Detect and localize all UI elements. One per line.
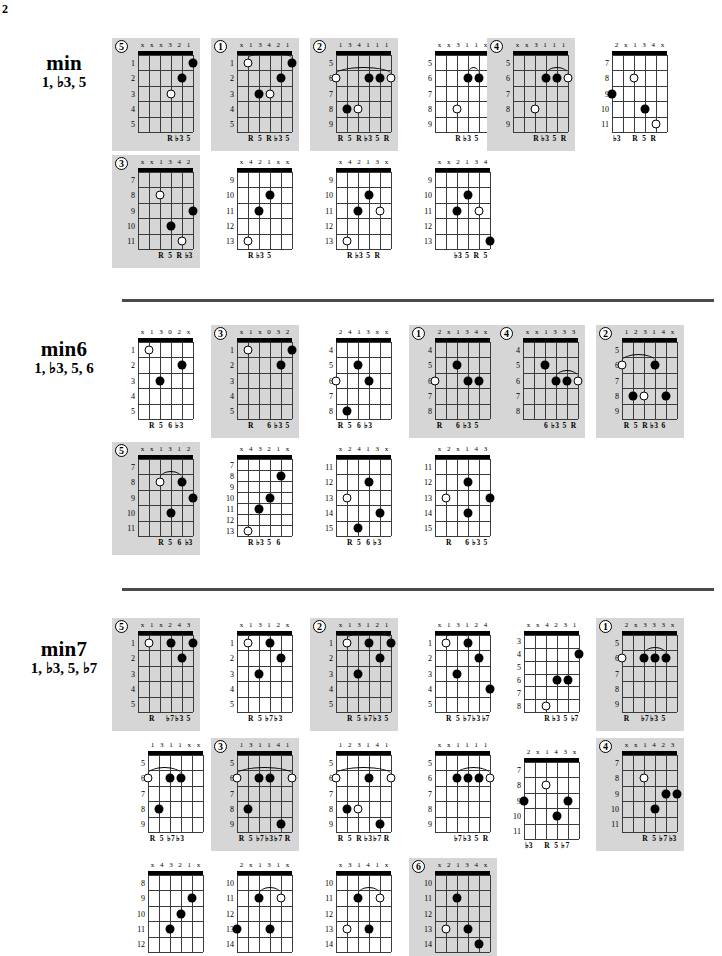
root-dot-open bbox=[387, 74, 396, 83]
string-line bbox=[369, 459, 370, 536]
finger-number: 1 bbox=[570, 621, 579, 631]
chord-diagram: 4xx311156789R♭35R bbox=[487, 38, 575, 151]
fret-line bbox=[237, 514, 292, 515]
chord-diagram: 213411156789R5R♭35R bbox=[310, 38, 398, 151]
string-line bbox=[148, 875, 149, 952]
finger-number: 1 bbox=[541, 41, 550, 51]
fret-number-column: 12345 bbox=[120, 55, 136, 132]
fret-number: 1 bbox=[230, 638, 234, 647]
string-line bbox=[644, 755, 645, 832]
string-line bbox=[523, 342, 524, 419]
finger-number: 4 bbox=[354, 41, 363, 51]
finger-number: 1 bbox=[147, 621, 156, 631]
finger-number: x bbox=[435, 741, 444, 751]
finger-dot bbox=[552, 376, 561, 385]
interval-label bbox=[336, 714, 345, 725]
fret-line bbox=[138, 388, 193, 389]
fret-number: 7 bbox=[141, 789, 145, 798]
string-line bbox=[237, 55, 238, 132]
finger-number: 1 bbox=[237, 741, 246, 751]
string-line bbox=[160, 172, 161, 249]
interval-labels-row: R5♭7♭3 bbox=[622, 834, 677, 845]
root-dot-open bbox=[442, 924, 451, 933]
fret-number: 8 bbox=[615, 684, 619, 693]
fret-line bbox=[524, 699, 579, 700]
fret-number: 11 bbox=[226, 894, 234, 903]
string-line bbox=[192, 875, 193, 952]
finger-numbers-row: x3141x bbox=[336, 861, 391, 871]
fret-number: 9 bbox=[615, 700, 619, 709]
finger-number: 3 bbox=[274, 328, 283, 338]
fret-number: 4 bbox=[230, 684, 234, 693]
barre-arc bbox=[358, 887, 380, 894]
interval-labels-row: ♭3R5♭7 bbox=[524, 841, 579, 852]
chord-form-badge: 3 bbox=[115, 157, 128, 170]
chord-form-badge: 6 bbox=[412, 860, 425, 873]
fret-line bbox=[336, 817, 391, 818]
finger-dot bbox=[365, 478, 374, 487]
fret-number: 8 bbox=[516, 407, 520, 416]
finger-number: 3 bbox=[255, 621, 264, 631]
string-line bbox=[281, 875, 282, 952]
interval-label: 5 bbox=[345, 421, 354, 432]
finger-number: x bbox=[453, 445, 462, 455]
finger-number: 1 bbox=[354, 328, 363, 338]
fret-number: 3 bbox=[230, 669, 234, 678]
interval-label bbox=[444, 251, 453, 262]
finger-dot bbox=[178, 361, 187, 370]
string-line bbox=[391, 755, 392, 832]
string-line bbox=[490, 635, 491, 712]
fret-line bbox=[435, 890, 490, 891]
fret-line bbox=[237, 342, 292, 343]
fret-number: 2 bbox=[230, 361, 234, 370]
finger-number: x bbox=[156, 41, 165, 51]
fret-number: 6 bbox=[516, 376, 520, 385]
finger-number: 3 bbox=[569, 328, 578, 338]
interval-label: R bbox=[166, 134, 175, 145]
interval-labels-row: R♭7♭35 bbox=[138, 714, 193, 725]
fret-line bbox=[336, 697, 391, 698]
fret-line bbox=[336, 755, 391, 756]
interval-label: R bbox=[622, 421, 631, 432]
interval-label: R bbox=[283, 834, 292, 845]
finger-number: x bbox=[481, 328, 490, 338]
string-line bbox=[358, 875, 359, 952]
string-line bbox=[237, 459, 238, 536]
string-line bbox=[259, 459, 260, 536]
finger-number: 2 bbox=[274, 621, 283, 631]
finger-number: 3 bbox=[157, 741, 166, 751]
string-line bbox=[524, 635, 525, 712]
finger-numbers-row: x2x143 bbox=[435, 445, 490, 455]
fret-line bbox=[138, 249, 193, 250]
finger-dot bbox=[178, 478, 187, 487]
interval-labels-row: R♭35♭7 bbox=[524, 714, 579, 725]
finger-numbers-row: xx1342 bbox=[138, 158, 193, 168]
finger-dot bbox=[520, 796, 529, 805]
string-line bbox=[292, 635, 293, 712]
finger-number: 4 bbox=[542, 621, 551, 631]
finger-number: x bbox=[373, 328, 382, 338]
fret-number-column: 1112131415 bbox=[318, 459, 334, 536]
finger-number: 4 bbox=[650, 741, 659, 751]
fret-line bbox=[237, 132, 292, 133]
fret-number: 11 bbox=[601, 120, 609, 129]
chord-diagram: 5xxx32112345R♭35 bbox=[112, 38, 200, 151]
interval-label bbox=[138, 714, 147, 725]
finger-dot bbox=[255, 206, 264, 215]
interval-labels-row: R5R♭35 bbox=[237, 134, 292, 145]
fret-line bbox=[237, 388, 292, 389]
chord-diagram: xx2134910111213♭35R5 bbox=[409, 155, 497, 268]
finger-number: 3 bbox=[561, 621, 570, 631]
finger-number: x bbox=[138, 41, 147, 51]
fret-number: 11 bbox=[127, 524, 135, 533]
fret-line bbox=[435, 755, 490, 756]
fret-line bbox=[622, 388, 677, 389]
fret-number: 15 bbox=[424, 524, 432, 533]
finger-number: x bbox=[194, 741, 203, 751]
fret-number: 5 bbox=[615, 345, 619, 354]
finger-number: 1 bbox=[246, 621, 255, 631]
fret-number: 7 bbox=[615, 669, 619, 678]
root-dot-open bbox=[376, 206, 385, 215]
chord-form-badge: 5 bbox=[115, 40, 128, 53]
fret-line bbox=[336, 172, 391, 173]
